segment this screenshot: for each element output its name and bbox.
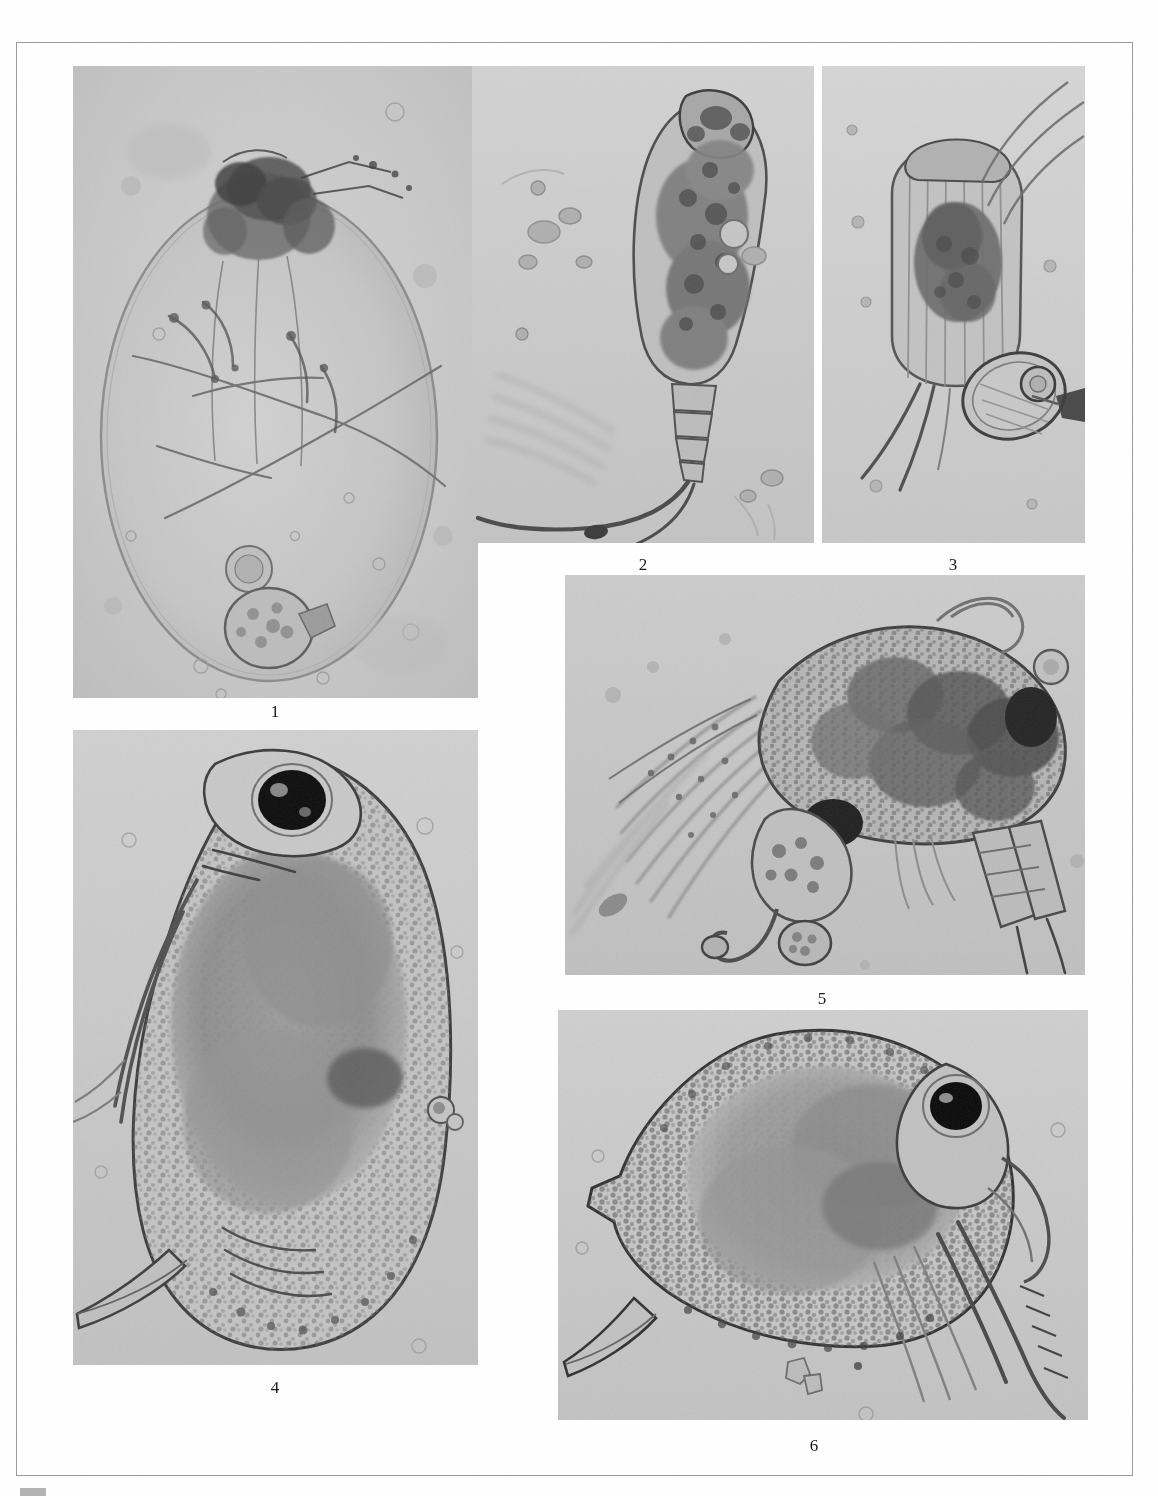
figure-panel-4[interactable] bbox=[73, 730, 478, 1365]
micrograph-image-4 bbox=[73, 730, 478, 1365]
micrograph-image-2 bbox=[472, 66, 814, 543]
panel-label-4: 4 bbox=[260, 1379, 290, 1396]
figure-panel-6[interactable] bbox=[558, 1010, 1088, 1420]
figure-panel-2[interactable] bbox=[472, 66, 814, 543]
micrograph-image-3 bbox=[822, 66, 1085, 543]
figure-area: 1 bbox=[0, 0, 1158, 1496]
micrograph-image-6 bbox=[558, 1010, 1088, 1420]
figure-caption-strip bbox=[20, 1482, 1120, 1496]
panel-label-2: 2 bbox=[628, 556, 658, 573]
panel-label-1: 1 bbox=[260, 703, 290, 720]
figure-panel-3[interactable] bbox=[822, 66, 1085, 543]
micrograph-image-1 bbox=[73, 66, 478, 698]
micrograph-image-5 bbox=[565, 575, 1085, 975]
caption-figure-mark bbox=[20, 1488, 46, 1496]
panel-label-6: 6 bbox=[799, 1437, 829, 1454]
panel-label-3: 3 bbox=[938, 556, 968, 573]
figure-panel-1[interactable] bbox=[73, 66, 478, 698]
panel-label-5: 5 bbox=[807, 990, 837, 1007]
micrograph-plate-page: 1 bbox=[0, 0, 1158, 1496]
figure-panel-5[interactable] bbox=[565, 575, 1085, 975]
